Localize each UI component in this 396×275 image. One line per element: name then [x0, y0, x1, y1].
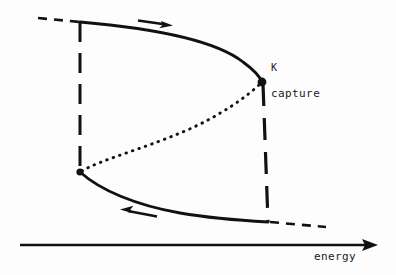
- upper-stable-branch-path: [80, 22, 262, 82]
- k-point-label: K: [271, 62, 277, 73]
- hysteresis-figure: K capture energy: [0, 0, 396, 275]
- right-jump-dashed-path: [263, 84, 268, 222]
- upper-incoming-dashed-path: [38, 18, 80, 22]
- upper-arrow-right-icon: [138, 21, 173, 29]
- capture-label: capture: [271, 87, 320, 100]
- figure-canvas: [0, 0, 396, 275]
- unstable-dotted-branch-path: [82, 83, 261, 171]
- lower-outgoing-dashed-path: [270, 222, 326, 227]
- lower-stable-branch-path: [80, 172, 268, 222]
- x-axis-label: energy: [314, 250, 356, 263]
- turning-point-K-marker: [258, 78, 267, 87]
- turning-point-lower-marker: [76, 168, 83, 175]
